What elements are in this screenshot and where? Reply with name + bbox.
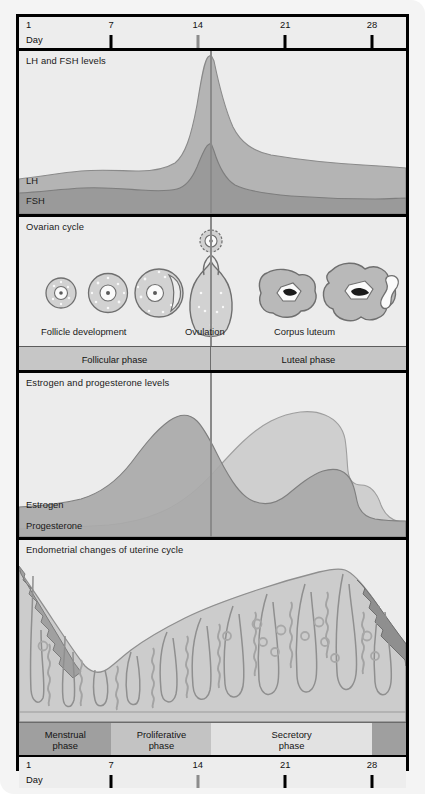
axis-tick-label: 7 — [108, 19, 113, 30]
follicle-stage-3-antral — [135, 269, 183, 317]
phase-luteal: Luteal phase — [211, 347, 406, 371]
axis-tick-label: 7 — [108, 759, 113, 770]
figure-card: 1 7 14 21 28 Day LH and FSH levels LH — [0, 0, 425, 794]
series-label-fsh: FSH — [26, 195, 45, 206]
bottom-day-axis: 1 7 14 21 28 Day — [19, 757, 406, 788]
panel-ovarian-cycle: Ovarian cycle Follicle development Ovula… — [19, 217, 406, 346]
phase-label: Secretory phase — [272, 729, 312, 751]
follicle-stage-1 — [46, 278, 76, 308]
corpus-luteum-early — [259, 269, 316, 317]
lh-fsh-chart — [19, 51, 406, 214]
axis-day-label: Day — [26, 774, 43, 785]
phase-label: Proliferative phase — [137, 729, 187, 751]
axis-tick-mark-7 — [110, 35, 113, 48]
axis-tick-label: 1 — [26, 759, 31, 770]
menstrual-cycle-figure: 1 7 14 21 28 Day LH and FSH levels LH — [16, 14, 409, 771]
follicle-stage-2 — [89, 274, 128, 313]
uterine-phase-bar: Menstrual phase Proliferative phase Secr… — [19, 722, 406, 756]
axis-day-label: Day — [26, 34, 43, 45]
phase-label: Menstrual phase — [45, 729, 86, 751]
stage-label-corpus-luteum: Corpus luteum — [274, 326, 335, 337]
phase-secretory: Secretory phase — [211, 723, 372, 756]
axis-tick-label: 28 — [367, 759, 377, 770]
phase-menstrual: Menstrual phase — [19, 723, 111, 756]
series-label-progesterone: Progesterone — [26, 520, 82, 531]
phase-follicular: Follicular phase — [19, 347, 211, 371]
axis-tick-label: 14 — [193, 19, 203, 30]
stage-label-ovulation: Ovulation — [185, 326, 225, 337]
axis-tick-mark-28 — [370, 35, 373, 48]
panel-endometrium: Endometrial changes of uterine cycle — [19, 540, 406, 722]
axis-tick-label: 28 — [367, 19, 377, 30]
axis-tick-mark-21 — [284, 35, 287, 48]
axis-tick-label: 1 — [26, 19, 31, 30]
ovarian-phase-bar: Follicular phase Luteal phase — [19, 346, 406, 372]
axis-tick-mark-21 — [284, 775, 287, 788]
panel-estrogen-progesterone: Estrogen and progesterone levels Estroge… — [19, 373, 406, 537]
axis-tick-label: 21 — [280, 19, 290, 30]
axis-tick-mark-14 — [196, 775, 199, 788]
panel-title-ovarian: Ovarian cycle — [26, 221, 84, 232]
axis-tick-mark-28 — [370, 775, 373, 788]
phase-menstrual-next — [372, 723, 406, 756]
phase-label: Follicular phase — [82, 354, 148, 365]
panel-title-estrogen-progesterone: Estrogen and progesterone levels — [26, 377, 169, 388]
series-label-lh: LH — [26, 175, 38, 186]
panel-title-endometrium: Endometrial changes of uterine cycle — [26, 544, 183, 555]
axis-tick-label: 21 — [280, 759, 290, 770]
series-label-estrogen: Estrogen — [26, 499, 64, 510]
panel-title-lh-fsh: LH and FSH levels — [26, 55, 106, 66]
axis-tick-label: 14 — [193, 759, 203, 770]
axis-tick-mark-14 — [196, 35, 199, 48]
panel-lh-fsh: LH and FSH levels LH FSH — [19, 51, 406, 214]
phase-label: Luteal phase — [282, 354, 336, 365]
stage-label-follicle-development: Follicle development — [41, 326, 126, 337]
estrogen-progesterone-chart — [19, 373, 406, 537]
phase-proliferative: Proliferative phase — [111, 723, 211, 756]
corpus-luteum-mature — [323, 263, 395, 320]
endometrium-illustration — [19, 540, 406, 722]
top-day-axis: 1 7 14 21 28 Day — [19, 17, 406, 48]
axis-tick-mark-7 — [110, 775, 113, 788]
